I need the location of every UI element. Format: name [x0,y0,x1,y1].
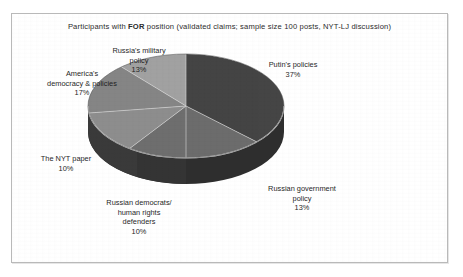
label-percent: 13% [234,203,370,213]
pie-chart: Russia's military policy 13% America's d… [12,14,449,264]
label-line-2: human rights [118,208,161,217]
label-line-2: democracy & policies [47,79,117,88]
pie-label-russian-democrats-human-rights-defenders: Russian democrats/ human rights defender… [74,198,204,236]
pie-label-russian-government-policy: Russian government policy 13% [234,184,370,213]
label-line-2: policy [293,194,312,203]
label-line-1: Russia's military [112,46,165,55]
pie-label-americas-democracy-and-policies: America's democracy & policies 17% [18,69,146,98]
label-line-1: The NYT paper [41,154,91,163]
label-line-1: America's [66,69,98,78]
label-line-2: policy [130,56,149,65]
pie-label-the-nyt-paper: The NYT paper 10% [14,154,118,173]
label-line-1: Putin's policies [269,60,318,69]
label-percent: 17% [18,88,146,98]
label-percent: 10% [14,164,118,174]
pie-label-putins-policies: Putin's policies 37% [234,60,352,79]
label-line-1: Russian democrats/ [106,198,171,207]
label-line-1: Russian government [268,184,336,193]
label-percent: 37% [234,70,352,80]
label-percent: 10% [74,227,204,237]
chart-frame: Participants with FOR position (validate… [11,13,448,263]
label-line-3: defenders [123,217,156,226]
